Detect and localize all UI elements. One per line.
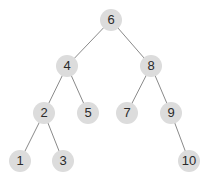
tree-node-5: 5 [77,102,99,124]
tree-node-9: 9 [160,102,182,124]
tree-node-1: 1 [9,150,31,172]
tree-node-4: 4 [56,55,78,77]
tree-node-8: 8 [140,55,162,77]
tree-node-2: 2 [33,102,55,124]
tree-node-3: 3 [52,150,74,172]
tree-node-10: 10 [178,150,200,172]
tree-node-6: 6 [100,9,122,31]
tree-node-7: 7 [116,102,138,124]
tree-diagram: 6 4 8 2 5 7 9 1 3 10 [0,0,211,180]
